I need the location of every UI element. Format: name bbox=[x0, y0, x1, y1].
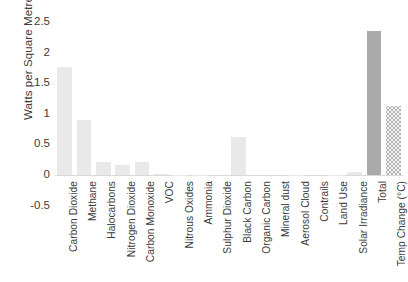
y-tick-label: 0.5 bbox=[20, 139, 50, 151]
bar-slot bbox=[326, 0, 345, 282]
bar-slot bbox=[94, 0, 113, 282]
bar-slot bbox=[364, 0, 383, 282]
bar[interactable] bbox=[386, 106, 401, 175]
bar-slot bbox=[268, 0, 287, 282]
y-tick-label: 2 bbox=[20, 47, 50, 59]
bar-slot bbox=[384, 0, 403, 282]
bar[interactable] bbox=[154, 174, 169, 175]
bar-slot bbox=[113, 0, 132, 282]
bar-slot bbox=[306, 0, 325, 282]
bar-slot bbox=[190, 0, 209, 282]
bar-slot bbox=[210, 0, 229, 282]
bar[interactable] bbox=[347, 172, 362, 175]
bar-slot bbox=[248, 0, 267, 282]
bar[interactable] bbox=[77, 120, 92, 175]
bar[interactable] bbox=[367, 31, 382, 175]
bar-slot bbox=[229, 0, 248, 282]
y-tick-label: 1 bbox=[20, 108, 50, 120]
bar-slot bbox=[55, 0, 74, 282]
bar[interactable] bbox=[231, 137, 246, 175]
plot-area bbox=[55, 0, 403, 282]
bar-slot bbox=[152, 0, 171, 282]
bar[interactable] bbox=[96, 162, 111, 175]
y-tick-label: -0.5 bbox=[20, 200, 50, 212]
bar[interactable] bbox=[173, 175, 188, 176]
bar[interactable] bbox=[193, 175, 208, 176]
y-tick-label: 1.5 bbox=[20, 77, 50, 89]
bar[interactable] bbox=[328, 175, 343, 176]
bar-slot bbox=[287, 0, 306, 282]
y-axis-tick-labels: 2.521.510.50-0.5 bbox=[18, 0, 50, 282]
y-tick-label: 0 bbox=[20, 169, 50, 181]
bar[interactable] bbox=[289, 175, 304, 176]
bar-slot bbox=[171, 0, 190, 282]
bar-slot bbox=[345, 0, 364, 282]
bar[interactable] bbox=[57, 67, 72, 175]
bar[interactable] bbox=[115, 165, 130, 175]
bar-slot bbox=[132, 0, 151, 282]
y-tick-label: 2.5 bbox=[20, 16, 50, 28]
bar-slot bbox=[74, 0, 93, 282]
bar[interactable] bbox=[135, 162, 150, 175]
